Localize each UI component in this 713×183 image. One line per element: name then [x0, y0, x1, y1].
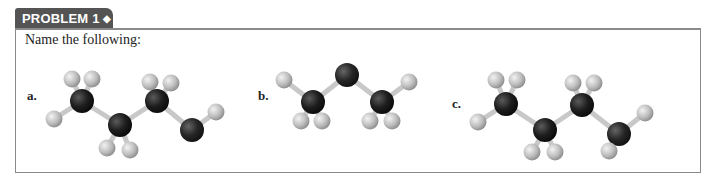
nitrogen-atom-icon: [607, 122, 631, 146]
hydrogen-atom-icon: [401, 74, 418, 91]
carbon-atom-icon: [145, 89, 169, 113]
hydrogen-atom-icon: [637, 105, 654, 122]
hydrogen-atom-icon: [470, 114, 487, 131]
hydrogen-atom-icon: [314, 113, 331, 130]
hydrogen-atom-icon: [601, 143, 618, 160]
hydrogen-atom-icon: [509, 72, 526, 89]
hydrogen-atom-icon: [122, 142, 139, 159]
carbon-atom-icon: [570, 93, 594, 117]
hydrogen-atom-icon: [163, 75, 180, 92]
hydrogen-atom-icon: [208, 104, 225, 121]
carbon-atom-icon: [494, 92, 518, 116]
hydrogen-atom-icon: [547, 144, 564, 161]
carbon-atom-icon: [70, 89, 94, 113]
hydrogen-atom-icon: [362, 113, 379, 130]
hydrogen-atom-icon: [84, 71, 101, 88]
carbon-atom-icon: [301, 90, 325, 114]
hydrogen-atom-icon: [64, 71, 81, 88]
molecule-models: [0, 0, 713, 183]
hydrogen-atom-icon: [384, 113, 401, 130]
carbon-atom-icon: [370, 90, 394, 114]
carbon-atom-icon: [108, 113, 132, 137]
hydrogen-atom-icon: [488, 72, 505, 89]
oxygen-atom-icon: [180, 118, 204, 142]
hydrogen-atom-icon: [142, 74, 159, 91]
hydrogen-atom-icon: [524, 144, 541, 161]
hydrogen-atom-icon: [586, 75, 603, 92]
hydrogen-atom-icon: [293, 113, 310, 130]
hydrogen-atom-icon: [565, 75, 582, 92]
carbon-atom-icon: [533, 118, 557, 142]
oxygen-atom-icon: [335, 63, 359, 87]
hydrogen-atom-icon: [99, 140, 116, 157]
hydrogen-atom-icon: [46, 111, 63, 128]
hydrogen-atom-icon: [276, 72, 293, 89]
